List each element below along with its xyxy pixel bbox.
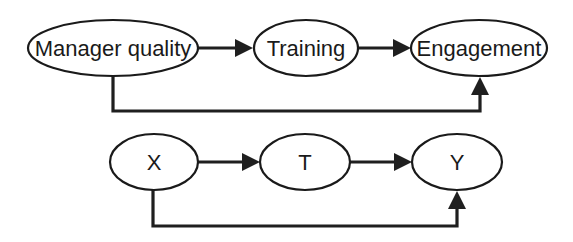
- node-y: Y: [412, 134, 502, 190]
- node-label: Manager quality: [35, 36, 192, 61]
- edge-training-to-engagement: [358, 39, 411, 57]
- causal-diagram: Manager quality Training Engagement X: [0, 0, 573, 242]
- node-t: T: [260, 134, 350, 190]
- node-label: T: [298, 150, 311, 175]
- top-diagram: Manager quality Training Engagement: [28, 20, 547, 111]
- edge-manager-to-engagement: [113, 76, 489, 111]
- node-training: Training: [254, 20, 358, 76]
- arrowhead-icon: [235, 39, 253, 57]
- node-label: Y: [450, 150, 465, 175]
- edge-manager-to-training: [198, 39, 253, 57]
- arrowhead-icon: [394, 153, 412, 171]
- edge-x-to-t: [198, 153, 260, 171]
- node-engagement: Engagement: [411, 20, 547, 76]
- bottom-diagram: X T Y: [110, 134, 502, 226]
- edge-x-to-y: [153, 190, 466, 226]
- arrowhead-icon: [242, 153, 260, 171]
- node-manager-quality: Manager quality: [28, 20, 198, 76]
- node-label: Training: [267, 36, 346, 61]
- node-label: Engagement: [417, 36, 542, 61]
- arrowhead-icon: [448, 191, 466, 209]
- node-x: X: [110, 134, 198, 190]
- arrowhead-icon: [393, 39, 411, 57]
- arrowhead-icon: [471, 77, 489, 95]
- edge-t-to-y: [350, 153, 412, 171]
- node-label: X: [147, 150, 162, 175]
